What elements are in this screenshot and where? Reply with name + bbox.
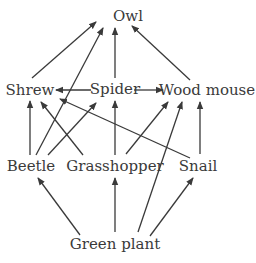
edge-beetle-spider (48, 103, 96, 155)
edge-grasshopper-shrew (41, 102, 83, 155)
node-beetle: Beetle (7, 159, 55, 174)
node-spider: Spider (90, 82, 140, 97)
node-snail: Snail (179, 159, 217, 174)
edge-snail-shrew (60, 99, 190, 158)
edge-shrew-owl (32, 22, 96, 78)
node-shrew: Shrew (6, 83, 55, 98)
edges-layer (0, 0, 256, 263)
edge-plant-beetle (38, 178, 80, 235)
node-owl: Owl (113, 9, 143, 24)
edge-plant-snail (150, 178, 193, 236)
node-green-plant: Green plant (70, 237, 160, 252)
edge-grasshopper-woodmouse (126, 102, 168, 154)
food-web-diagram: Owl Shrew Spider Wood mouse Beetle Grass… (0, 0, 256, 263)
node-grasshopper: Grasshopper (66, 159, 163, 174)
edge-woodmouse-owl (132, 26, 190, 80)
node-wood-mouse: Wood mouse (159, 83, 255, 98)
